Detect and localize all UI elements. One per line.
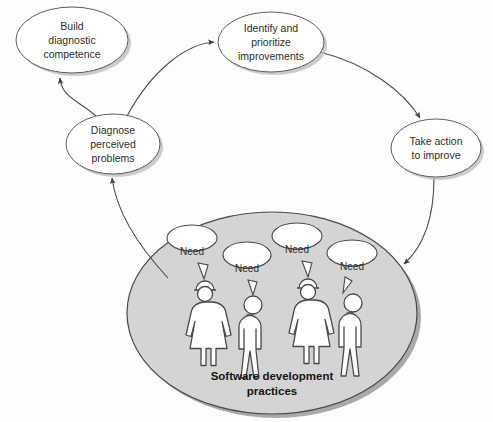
- arrow-take-action-to-practices: [404, 178, 434, 264]
- male-head-1: [244, 296, 262, 314]
- node-label-4-line-1: Diagnose: [91, 124, 136, 136]
- node-take-action-to-improve[interactable]: Take action to improve: [391, 119, 484, 180]
- node-diagnose-perceived-problems[interactable]: Diagnose perceived problems: [66, 114, 163, 177]
- group-label-line-2: practices: [247, 385, 298, 397]
- arrow-diagnose-to-build: [60, 78, 96, 116]
- node-build-diagnostic-competence[interactable]: Build diagnostic competence: [16, 7, 131, 76]
- arrow-identify-to-take-action: [320, 52, 420, 118]
- node-identify-and-prioritize-improvements[interactable]: Identify and prioritize improvements: [218, 12, 327, 75]
- node-label-1-line-1: Build: [60, 20, 84, 32]
- node-label-3-line-2: to improve: [411, 149, 460, 161]
- group-label-line-1: Software development: [211, 370, 334, 382]
- node-label-2-line-1: Identify and: [244, 22, 298, 34]
- node-label-2-line-3: improvements: [238, 50, 304, 62]
- female-face-1: [198, 287, 213, 302]
- speech-bubble-label-2: Need: [235, 263, 259, 274]
- node-label-1-line-3: competence: [43, 48, 100, 60]
- male-head-2: [344, 294, 362, 312]
- node-label-3-line-1: Take action: [409, 135, 462, 147]
- cycle-diagram-root: Need Need Need Need Software development…: [0, 0, 493, 422]
- diagram-canvas: Need Need Need Need Software development…: [0, 0, 493, 422]
- speech-bubble-label-1: Need: [180, 246, 204, 257]
- node-label-4-line-3: problems: [91, 152, 134, 164]
- node-label-2-line-2: prioritize: [251, 36, 291, 48]
- node-label-4-line-2: perceived: [90, 138, 136, 150]
- female-face-2: [301, 285, 316, 300]
- software-development-practices-group[interactable]: Need Need Need Need Software development…: [127, 212, 421, 418]
- speech-bubble-label-4: Need: [340, 261, 364, 272]
- node-label-1-line-2: diagnostic: [48, 34, 95, 46]
- speech-bubble-label-3: Need: [285, 244, 309, 255]
- arrow-diagnose-to-identify: [127, 42, 214, 116]
